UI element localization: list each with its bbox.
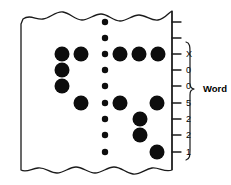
index-dot-7 xyxy=(102,132,108,138)
tick-label-group: X005221 xyxy=(186,49,192,157)
punch-hole-2 xyxy=(55,79,70,94)
index-dot-3 xyxy=(102,67,108,73)
punch-hole-9 xyxy=(150,96,165,111)
punch-hole-8 xyxy=(113,96,128,111)
index-dot-2 xyxy=(102,51,108,57)
card-outline xyxy=(21,11,172,174)
punch-hole-3 xyxy=(74,47,89,62)
index-dot-6 xyxy=(102,116,108,122)
index-dot-0 xyxy=(102,19,108,25)
punch-hole-6 xyxy=(132,47,147,62)
punch-hole-4 xyxy=(74,96,89,111)
figure-canvas: X005221 Word xyxy=(0,0,231,185)
tick-label-row-2: X xyxy=(186,49,192,59)
punch-hole-12 xyxy=(150,145,165,160)
punch-hole-10 xyxy=(133,112,148,127)
index-dot-1 xyxy=(102,35,108,41)
punch-hole-11 xyxy=(133,128,148,143)
index-dot-5 xyxy=(102,100,108,106)
punch-hole-0 xyxy=(55,47,70,62)
punch-hole-1 xyxy=(55,63,70,78)
tick-mark-group xyxy=(172,22,181,152)
punched-card-figure: X005221 Word xyxy=(0,0,231,185)
index-dot-column xyxy=(102,19,108,155)
index-dot-8 xyxy=(102,149,108,155)
punch-hole-7 xyxy=(151,47,166,62)
punch-hole-5 xyxy=(113,47,128,62)
word-label: Word xyxy=(203,83,227,94)
index-dot-4 xyxy=(102,83,108,89)
